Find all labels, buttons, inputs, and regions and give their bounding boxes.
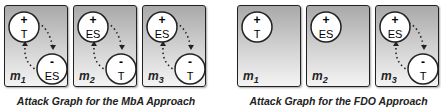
svg-text:ES: ES bbox=[86, 28, 101, 40]
svg-text:ES: ES bbox=[319, 28, 334, 40]
svg-text:ES: ES bbox=[45, 70, 60, 82]
fdo-panel-m3: + ES - T m3 bbox=[375, 5, 439, 87]
svg-text:+: + bbox=[253, 13, 260, 27]
svg-text:-: - bbox=[188, 55, 192, 69]
svg-text:ES: ES bbox=[155, 28, 170, 40]
svg-text:+: + bbox=[322, 13, 329, 27]
svg-text:ES: ES bbox=[388, 28, 403, 40]
svg-text:+: + bbox=[20, 13, 27, 27]
mapping-label: m3 bbox=[381, 69, 397, 85]
svg-text:+: + bbox=[391, 13, 398, 27]
mba-panel-m3: + ES - T m3 bbox=[142, 5, 206, 87]
mapping-label: m3 bbox=[148, 69, 164, 85]
mba-caption: Attack Graph for the MbA Approach bbox=[4, 95, 208, 107]
svg-text:T: T bbox=[118, 70, 125, 82]
svg-text:T: T bbox=[254, 28, 261, 40]
fdo-panel-m1: + T m1 bbox=[237, 5, 301, 87]
svg-text:T: T bbox=[420, 70, 427, 82]
mapping-label: m1 bbox=[10, 69, 26, 85]
svg-text:T: T bbox=[187, 70, 194, 82]
mba-panel-m2: + ES - T m2 bbox=[73, 5, 137, 87]
fdo-panel-m2: + ES m2 bbox=[306, 5, 370, 87]
svg-text:+: + bbox=[89, 13, 96, 27]
svg-text:-: - bbox=[421, 55, 425, 69]
fdo-caption: Attack Graph for the FDO Approach bbox=[237, 95, 440, 107]
mapping-label: m2 bbox=[79, 69, 95, 85]
mapping-label: m2 bbox=[312, 69, 328, 85]
svg-text:+: + bbox=[158, 13, 165, 27]
svg-text:-: - bbox=[50, 55, 54, 69]
svg-text:-: - bbox=[119, 55, 123, 69]
svg-text:T: T bbox=[21, 28, 28, 40]
mapping-label: m1 bbox=[243, 69, 259, 85]
mba-panel-m1: + T - ES m1 bbox=[4, 5, 68, 87]
